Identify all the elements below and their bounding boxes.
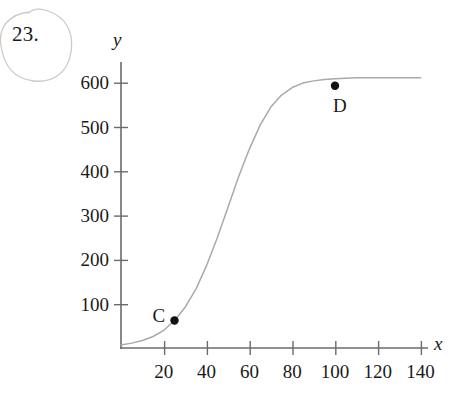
y-tick-label: 300 [63,206,109,225]
x-tick-label: 100 [321,362,350,381]
x-tick-label: 120 [364,362,393,381]
data-point-d-marker [331,82,339,90]
figure-container: 23. y x 100200300400500600 2040608010012… [0,0,473,401]
x-tick-label: 20 [154,362,173,381]
y-tick-label: 600 [63,73,109,92]
y-axis-label: y [113,30,121,49]
x-tick-label: 60 [240,362,259,381]
x-axis-label: x [434,334,442,353]
problem-number: 23. [12,24,39,45]
y-tick-label: 200 [63,250,109,269]
data-point-d-label: D [333,96,347,115]
data-point-c-label: C [153,306,166,325]
x-tick-label: 40 [197,362,216,381]
y-tick-label: 100 [63,294,109,313]
x-tick-label: 140 [406,362,435,381]
logistic-curve [121,78,421,345]
plot-canvas [0,0,473,401]
data-point-c-marker [170,316,178,324]
y-tick-label: 400 [63,161,109,180]
x-tick-label: 80 [283,362,302,381]
y-tick-label: 500 [63,117,109,136]
